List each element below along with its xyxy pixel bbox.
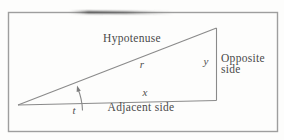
right-triangle-figure: Hypotenuse r y Opposite side x Adjacent …: [0, 0, 284, 140]
angle-arc: [78, 89, 83, 111]
hypotenuse-label: Hypotenuse: [103, 32, 161, 45]
adjacent-variable: x: [142, 86, 148, 98]
hypotenuse-variable: r: [140, 58, 145, 70]
angle-arrow-icon: [77, 86, 81, 92]
angle-variable: t: [72, 104, 76, 116]
figure-canvas: Hypotenuse r y Opposite side x Adjacent …: [0, 0, 284, 140]
opposite-side-label-line2: side: [221, 63, 241, 75]
scan-smudge: [70, 12, 172, 13]
opposite-variable: y: [203, 55, 209, 67]
adjacent-side-label: Adjacent side: [108, 101, 175, 114]
